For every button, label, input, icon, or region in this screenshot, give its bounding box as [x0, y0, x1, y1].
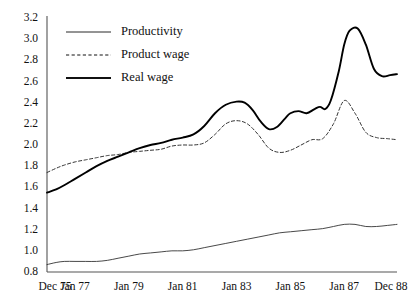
series-line-productivity	[47, 224, 397, 264]
y-tick-label: 1.2	[12, 224, 38, 236]
y-tick-label: 1.0	[12, 245, 38, 257]
x-tick-label: Jan 81	[168, 281, 198, 293]
x-tick-label: Jan 85	[276, 281, 306, 293]
x-tick-label: Jan 83	[222, 281, 252, 293]
y-tick-label: 2.0	[12, 139, 38, 151]
data-series-group	[47, 28, 397, 265]
x-tick-label: Jan 77	[60, 281, 90, 293]
y-tick-label: 1.8	[12, 160, 38, 172]
y-tick-label: 2.4	[12, 97, 38, 109]
chart-plot-area	[0, 0, 418, 305]
legend-swatch-group	[66, 32, 111, 78]
y-tick-label: 3.2	[12, 12, 38, 24]
series-line-product-wage	[47, 100, 397, 172]
y-tick-label: 1.4	[12, 203, 38, 215]
y-tick-label: 1.6	[12, 181, 38, 193]
x-tick-label: Jan 87	[329, 281, 359, 293]
legend-label-product-wage: Product wage	[121, 48, 189, 61]
x-tick-label: Dec 88	[375, 281, 408, 293]
chart-container: 0.81.01.21.41.61.82.02.22.42.62.83.03.2 …	[0, 0, 418, 305]
y-tick-label: 2.8	[12, 54, 38, 66]
y-tick-label: 0.8	[12, 266, 38, 278]
y-tick-label: 2.6	[12, 76, 38, 88]
axes-group	[47, 16, 397, 272]
y-tick-label: 3.0	[12, 33, 38, 45]
series-line-real-wage	[47, 28, 397, 193]
legend-label-productivity: Productivity	[121, 25, 183, 38]
y-tick-label: 2.2	[12, 118, 38, 130]
x-tick-label: Jan 79	[114, 281, 144, 293]
legend-label-real-wage: Real wage	[121, 71, 173, 84]
